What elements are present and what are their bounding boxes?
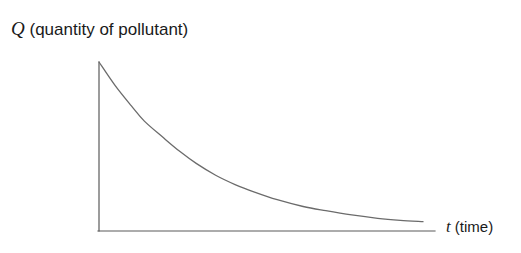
y-axis-description: (quantity of pollutant)	[29, 20, 188, 39]
x-axis-label: t (time)	[446, 219, 493, 236]
y-axis-variable: Q	[11, 18, 25, 39]
exponential-decay-curve	[99, 62, 423, 222]
x-axis-description: (time)	[455, 218, 493, 235]
pollutant-decay-figure: Q (quantity of pollutant) t (time)	[0, 0, 521, 253]
y-axis-label: Q (quantity of pollutant)	[11, 19, 188, 38]
